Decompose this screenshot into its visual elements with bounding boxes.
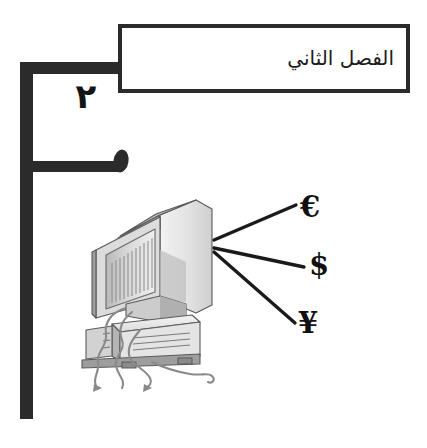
dollar-icon: $ bbox=[309, 251, 329, 280]
euro-icon: € bbox=[300, 193, 320, 222]
page-canvas: الفصل الثاني ٢ bbox=[0, 0, 427, 448]
connector-line-euro bbox=[214, 205, 296, 240]
yen-icon: ¥ bbox=[298, 309, 318, 338]
currency-connector-lines bbox=[0, 0, 427, 448]
